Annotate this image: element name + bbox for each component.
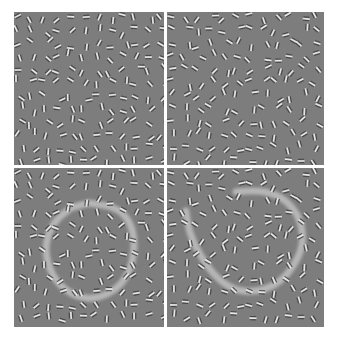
gabor-patch <box>38 90 46 98</box>
gabor-patch <box>42 288 48 296</box>
gabor-patch <box>30 224 38 232</box>
gabor-patch <box>17 95 25 103</box>
gabor-patch <box>167 118 174 123</box>
gabor-patch <box>252 245 260 250</box>
gabor-patch <box>133 52 140 60</box>
gabor-patch <box>252 262 257 269</box>
gabor-patch <box>275 58 282 63</box>
gabor-patch <box>170 303 177 308</box>
gabor-patch <box>67 170 74 175</box>
gabor-patch <box>39 16 45 24</box>
gabor-patch <box>124 143 129 150</box>
gabor-patch <box>109 248 116 253</box>
gabor-patch <box>104 160 109 165</box>
gabor-patch <box>209 95 217 103</box>
gabor-patch <box>85 253 93 259</box>
gabor-patch <box>84 43 89 50</box>
gabor-patch <box>222 116 230 123</box>
gabor-patch <box>312 133 318 141</box>
gabor-patch <box>238 180 246 186</box>
gabor-patch <box>209 231 217 239</box>
gabor-patch <box>17 251 25 259</box>
gabor-patch <box>275 102 283 110</box>
gabor-patch <box>44 55 52 63</box>
gabor-patch <box>187 198 192 205</box>
gabor-patch <box>20 101 25 109</box>
gabor-patch <box>106 273 114 281</box>
gabor-patch <box>27 92 33 100</box>
gabor-patch <box>146 297 153 302</box>
gabor-patch <box>183 247 191 254</box>
gabor-patch <box>264 213 272 218</box>
gabor-patch <box>273 316 279 324</box>
gabor-patch <box>298 115 306 123</box>
gabor-patch <box>132 313 137 320</box>
gabor-patch <box>182 143 189 148</box>
gabor-patch <box>32 265 38 273</box>
gabor-patch <box>313 181 321 189</box>
gabor-patch <box>160 158 164 165</box>
gabor-patch <box>230 131 238 139</box>
gabor-patch <box>38 77 46 83</box>
gabor-patch <box>212 13 219 18</box>
gabor-patch <box>158 211 164 217</box>
gabor-patch <box>167 76 174 82</box>
gabor-patch <box>68 305 76 311</box>
gabor-patch <box>84 199 89 206</box>
gabor-patch <box>198 238 206 246</box>
gabor-patch <box>223 302 231 310</box>
gabor-patch <box>273 160 279 165</box>
gabor-patch <box>258 134 265 139</box>
gabor-patch <box>17 54 23 62</box>
gabor-patch <box>147 291 155 299</box>
gabor-patch <box>14 68 21 73</box>
stimulus-panel-top-left <box>14 12 164 165</box>
gabor-patch <box>196 317 202 325</box>
gabor-patch <box>130 169 136 177</box>
gabor-patch <box>287 225 295 233</box>
gabor-patch <box>206 288 211 296</box>
gabor-patch <box>168 244 176 252</box>
gabor-patch <box>199 55 207 62</box>
gabor-patch <box>109 77 117 84</box>
gabor-patch <box>129 105 136 113</box>
gabor-patch <box>33 284 38 291</box>
gabor-patch <box>249 160 256 165</box>
gabor-patch <box>235 36 242 44</box>
gabor-patch <box>14 224 21 229</box>
gabor-patch <box>144 181 152 189</box>
gabor-patch <box>196 161 202 165</box>
gabor-patch <box>29 233 37 239</box>
gabor-patch <box>256 301 264 308</box>
gabor-patch <box>300 286 308 293</box>
gabor-patch <box>147 135 155 143</box>
gabor-patch <box>120 251 128 257</box>
gabor-patch <box>92 248 99 253</box>
gabor-patch <box>33 157 41 164</box>
gabor-patch <box>125 233 130 240</box>
gabor-patch <box>54 199 62 206</box>
gabor-patch <box>314 251 321 259</box>
gabor-patch <box>118 168 126 174</box>
gabor-patch <box>78 210 84 218</box>
gabor-patch <box>32 146 40 154</box>
gabor-patch <box>66 232 74 239</box>
gabor-patch <box>269 141 277 149</box>
gabor-patch <box>168 259 176 266</box>
gabor-patch <box>106 117 114 125</box>
gabor-patch <box>30 68 38 76</box>
gabor-patch <box>155 289 163 297</box>
gabor-patch <box>77 133 84 141</box>
gabor-patch <box>211 204 218 212</box>
gabor-patch <box>245 132 253 139</box>
gabor-patch <box>89 310 97 318</box>
gabor-patch <box>124 299 129 306</box>
gabor-patch <box>237 304 245 309</box>
gabor-patch <box>109 233 117 240</box>
gabor-patch <box>85 97 93 103</box>
gabor-patch <box>79 301 87 309</box>
gabor-patch <box>308 80 316 87</box>
gabor-patch <box>19 273 27 280</box>
gabor-patch <box>284 12 292 18</box>
gabor-patch <box>183 159 191 165</box>
